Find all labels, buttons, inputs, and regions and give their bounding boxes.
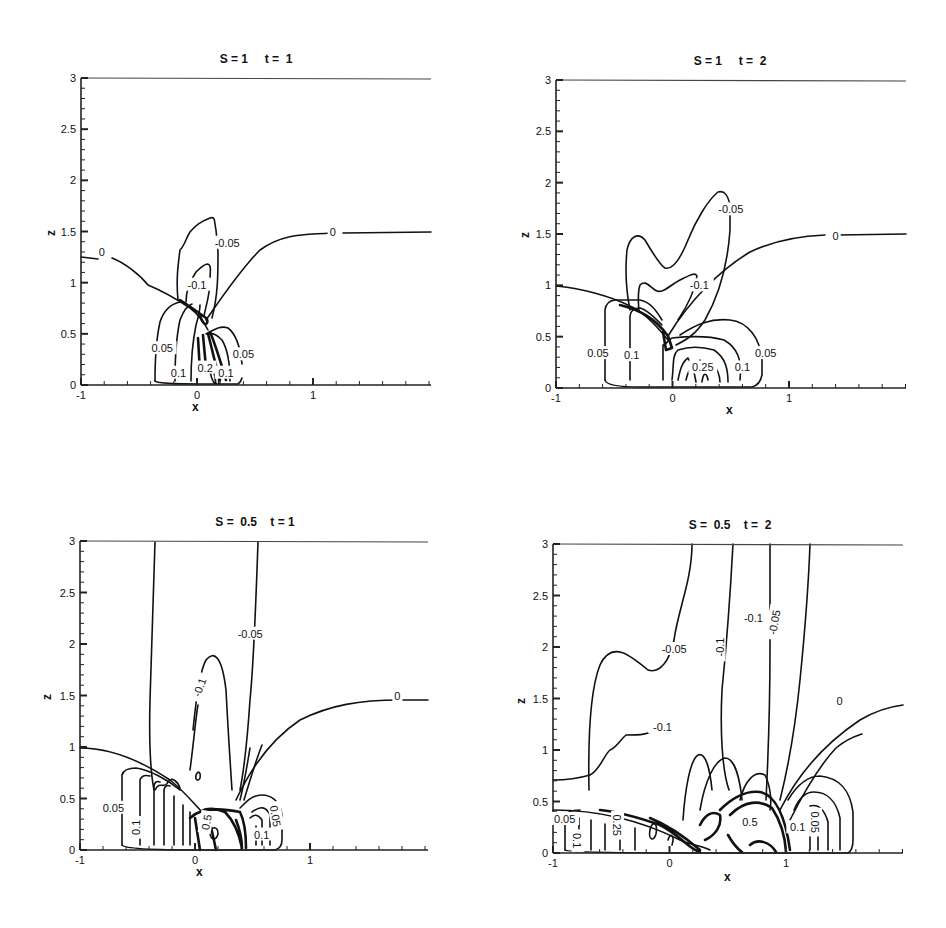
y-tick-label: 0.5 bbox=[533, 796, 548, 808]
x-tick-label: -1 bbox=[548, 857, 558, 869]
contour-plot: -10100.511.522.53 -0.05-0.1-0.1-0.050-0.… bbox=[0, 0, 946, 928]
contour-labels: -0.05-0.1-0.1-0.050-0.10.050.10.250.50.1… bbox=[550, 604, 844, 852]
svg-text:-0.1: -0.1 bbox=[714, 638, 726, 657]
svg-text:0.05: 0.05 bbox=[554, 813, 575, 825]
svg-text:0.1: 0.1 bbox=[571, 833, 583, 848]
y-tick-label: 2.5 bbox=[533, 590, 548, 602]
axis-ticks: -10100.511.522.53 bbox=[533, 538, 903, 869]
x-tick-label: 1 bbox=[783, 857, 789, 869]
contour-label: -0.1 bbox=[713, 633, 726, 662]
contour-label: -0.05 bbox=[657, 642, 692, 655]
y-tick-label: 2 bbox=[542, 641, 548, 653]
x-tick-label: 0 bbox=[666, 857, 672, 869]
svg-text:-0.1: -0.1 bbox=[744, 612, 763, 624]
axes bbox=[553, 544, 903, 853]
y-tick-label: 1.5 bbox=[533, 693, 548, 705]
svg-text:-0.05: -0.05 bbox=[662, 643, 687, 655]
y-tick-label: 1 bbox=[542, 744, 548, 756]
contour-label: 0.1 bbox=[571, 829, 584, 852]
svg-text:0.25: 0.25 bbox=[611, 814, 623, 835]
contour-label: 0.05 bbox=[550, 812, 579, 825]
svg-text:0.1: 0.1 bbox=[790, 821, 805, 833]
contour-label: 0 bbox=[834, 694, 844, 707]
y-tick-label: 0 bbox=[542, 847, 548, 859]
contour-label: -0.1 bbox=[739, 611, 768, 624]
contour-label: -0.1 bbox=[648, 720, 677, 733]
y-tick-label: 3 bbox=[542, 538, 548, 550]
contour-panel-s05-t2: S = 0.5 t = 2 x z bbox=[0, 0, 946, 928]
svg-text:-0.1: -0.1 bbox=[653, 721, 672, 733]
svg-text:0.5: 0.5 bbox=[742, 816, 757, 828]
svg-text:0: 0 bbox=[837, 695, 843, 707]
contour-label: 0.25 bbox=[611, 811, 624, 840]
contour-lines bbox=[553, 544, 903, 853]
contour-label: 0.05 bbox=[809, 808, 822, 837]
contour-label: 0.5 bbox=[739, 815, 762, 828]
svg-text:0.05: 0.05 bbox=[809, 811, 821, 832]
contour-label: 0.1 bbox=[786, 820, 809, 833]
svg-text:-0.05: -0.05 bbox=[766, 609, 782, 636]
